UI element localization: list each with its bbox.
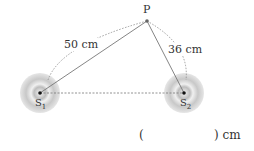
answer-unit: ) cm bbox=[214, 128, 241, 142]
point-p-marker bbox=[145, 19, 149, 23]
source-1-dot bbox=[38, 91, 42, 95]
answer-blank[interactable] bbox=[148, 128, 213, 142]
line-s1-p bbox=[40, 21, 147, 93]
line-s2-p bbox=[147, 21, 184, 93]
distance-s2p-label: 36 cm bbox=[168, 43, 202, 56]
distance-s1p-label: 50 cm bbox=[64, 38, 98, 51]
answer-open-paren: ( bbox=[139, 128, 144, 142]
point-p-label: P bbox=[143, 3, 150, 16]
source-2-label: S2 bbox=[180, 97, 191, 111]
source-2-dot bbox=[182, 91, 186, 95]
source-1-label: S1 bbox=[35, 97, 46, 111]
